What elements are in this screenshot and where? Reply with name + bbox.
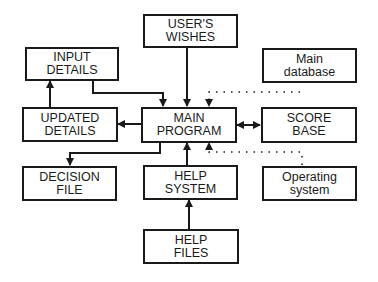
node-operating-system: Operating system [262, 166, 357, 201]
node-label-line2: FILE [56, 184, 82, 197]
node-label-line1: Main [296, 53, 323, 66]
node-label-line2: database [284, 66, 335, 79]
node-label-line1: Operating [282, 171, 337, 184]
node-updated-details: UPDATED DETAILS [22, 107, 118, 142]
node-label-line2: SYSTEM [165, 183, 216, 196]
node-label-line2: BASE [292, 125, 325, 138]
node-main-program: MAIN PROGRAM [141, 107, 237, 143]
node-main-database: Main database [262, 48, 357, 83]
diagram-canvas: USER'S WISHES INPUT DETAILS Main databas… [0, 0, 378, 282]
node-users-wishes: USER'S WISHES [143, 14, 238, 48]
node-decision-file: DECISION FILE [22, 166, 117, 201]
node-label-line1: HELP [174, 170, 207, 183]
node-label-line2: DETAILS [44, 125, 95, 138]
edge-input-to-main [93, 80, 163, 106]
node-label-line2: WISHES [166, 31, 215, 44]
node-help-files: HELP FILES [143, 229, 239, 264]
edge-os-to-main [209, 143, 302, 165]
edge-database-to-main [209, 92, 300, 106]
edge-main-to-decision [70, 142, 160, 165]
node-label-line2: system [290, 184, 330, 197]
node-label-line1: DECISION [39, 171, 99, 184]
node-score-base: SCORE BASE [261, 107, 357, 143]
node-label-line2: PROGRAM [157, 125, 222, 138]
node-input-details: INPUT DETAILS [25, 47, 119, 81]
node-help-system: HELP SYSTEM [143, 165, 238, 200]
node-label-line2: DETAILS [46, 64, 97, 77]
node-label-line1: UPDATED [41, 112, 100, 125]
node-label-line1: HELP [175, 234, 208, 247]
node-label-line2: FILES [174, 247, 209, 260]
